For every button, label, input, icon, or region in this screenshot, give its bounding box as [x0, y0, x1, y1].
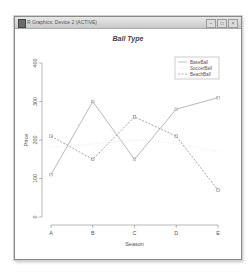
legend: BaseBallSoccerBallBeachBall	[175, 57, 219, 79]
r-app-icon	[18, 19, 26, 28]
close-button[interactable]: ×	[228, 19, 238, 28]
window-titlebar[interactable]: R Graphics: Device 2 (ACTIVE) – □ ×	[15, 17, 241, 29]
series-baseball	[50, 96, 220, 176]
series-group	[50, 96, 220, 191]
series-line	[51, 98, 218, 175]
series-beachball	[50, 116, 220, 192]
x-tick-label: E	[216, 230, 220, 236]
r-graphics-window: R Graphics: Device 2 (ACTIVE) – □ × Ball…	[14, 16, 242, 260]
x-tick-label: A	[49, 230, 53, 236]
x-tick-label: C	[133, 230, 137, 236]
x-tick-label: B	[91, 230, 95, 236]
window-title: R Graphics: Device 2 (ACTIVE)	[27, 18, 97, 27]
y-tick-label: 200	[32, 135, 38, 144]
maximize-button[interactable]: □	[217, 19, 227, 28]
x-tick-label: D	[174, 230, 178, 236]
y-tick-label: 400	[32, 58, 38, 67]
chart-title: Ball Type	[113, 35, 144, 43]
y-tick-label: 100	[32, 174, 38, 183]
y-axis: 0100200300400	[32, 58, 42, 218]
x-axis: ABCDE	[49, 225, 220, 236]
plot-area: Ball Type 0100200300400 ABCDE Price Seas…	[15, 29, 241, 259]
minimize-button[interactable]: –	[206, 19, 216, 28]
legend-label: BaseBall	[190, 60, 208, 65]
y-tick-label: 300	[32, 97, 38, 106]
y-tick-label: 0	[32, 215, 38, 218]
x-axis-label: Season	[125, 241, 144, 247]
window-controls: – □ ×	[206, 19, 238, 28]
legend-label: BeachBall	[190, 72, 211, 77]
y-axis-label: Price	[23, 134, 29, 147]
line-chart: Ball Type 0100200300400 ABCDE Price Seas…	[15, 29, 241, 259]
legend-label: SoccerBall	[190, 66, 212, 71]
series-line	[51, 117, 218, 190]
